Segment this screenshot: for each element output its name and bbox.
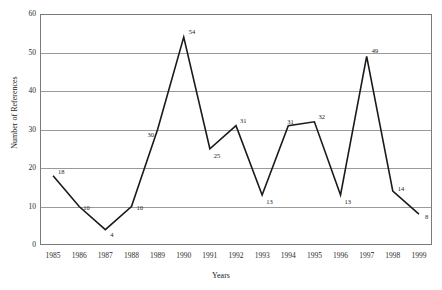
- x-tick-label-1991: 1991: [202, 252, 217, 260]
- y-tick-label-50: 50: [2, 49, 36, 57]
- x-tick-label-1996: 1996: [333, 252, 348, 260]
- x-tick-label-1988: 1988: [124, 252, 139, 260]
- x-axis-tick-labels: 1985198619871988198919901991199219931994…: [40, 252, 432, 266]
- point-label-1997: 49: [372, 47, 379, 54]
- point-label-1995: 32: [318, 112, 325, 119]
- x-tick-label-1985: 1985: [46, 252, 61, 260]
- y-tick-label-40: 40: [2, 87, 36, 95]
- point-label-1989: 30: [148, 130, 155, 137]
- point-label-1990: 54: [189, 28, 196, 35]
- y-tick-label-10: 10: [2, 203, 36, 211]
- point-label-1999: 8: [425, 213, 428, 220]
- x-tick-label-1989: 1989: [150, 252, 165, 260]
- point-label-1996: 13: [345, 197, 352, 204]
- point-label-1991: 25: [214, 151, 221, 158]
- x-tick-label-1995: 1995: [307, 252, 322, 260]
- x-tick-label-1997: 1997: [359, 252, 374, 260]
- x-tick-label-1994: 1994: [281, 252, 296, 260]
- y-tick-label-60: 60: [2, 10, 36, 18]
- x-tick-label-1999: 1999: [411, 252, 426, 260]
- x-tick-label-1987: 1987: [98, 252, 113, 260]
- x-tick-label-1993: 1993: [255, 252, 270, 260]
- x-tick-label-1992: 1992: [229, 252, 244, 260]
- point-label-1998: 14: [398, 185, 405, 192]
- point-label-1985: 18: [58, 167, 65, 174]
- y-tick-label-30: 30: [2, 126, 36, 134]
- point-label-1994: 31: [287, 117, 294, 124]
- point-label-1986: 10: [83, 203, 90, 210]
- x-axis-title: Years: [0, 271, 442, 280]
- y-tick-label-20: 20: [2, 164, 36, 172]
- x-tick-label-1986: 1986: [72, 252, 87, 260]
- point-label-1988: 10: [136, 203, 143, 210]
- x-tick-label-1998: 1998: [385, 252, 400, 260]
- x-tick-label-1990: 1990: [176, 252, 191, 260]
- y-axis-title: Number of References: [10, 53, 19, 173]
- series-line-number-of-references: [53, 37, 419, 230]
- point-label-1993: 13: [266, 197, 273, 204]
- point-label-1992: 31: [240, 116, 247, 123]
- line-chart: 0102030405060 18104103054253113313213491…: [0, 0, 442, 290]
- point-label-1987: 4: [110, 230, 113, 237]
- y-tick-label-0: 0: [2, 241, 36, 249]
